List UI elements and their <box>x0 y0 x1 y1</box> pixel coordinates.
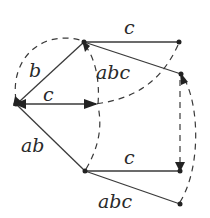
node-e <box>87 103 90 106</box>
node-h <box>178 202 183 207</box>
label-a-d: b <box>29 59 41 81</box>
node-c <box>179 72 184 77</box>
automaton-diagram: c abc b c ab c abc <box>0 0 210 218</box>
node-f <box>83 169 88 174</box>
node-g <box>178 169 183 174</box>
dashed-edge-f-to-e <box>86 106 100 169</box>
node-b <box>177 40 182 45</box>
node-d <box>14 102 19 107</box>
label-f-g: c <box>124 146 135 168</box>
dashed-edge-h-to-c <box>180 80 196 202</box>
label-a-c: abc <box>96 61 130 83</box>
node-a <box>82 40 87 45</box>
label-d-f: ab <box>21 134 45 156</box>
label-f-h: abc <box>98 190 132 212</box>
arrowhead-at-e <box>84 99 98 109</box>
label-d-e: c <box>43 83 54 105</box>
label-a-b: c <box>124 16 135 38</box>
